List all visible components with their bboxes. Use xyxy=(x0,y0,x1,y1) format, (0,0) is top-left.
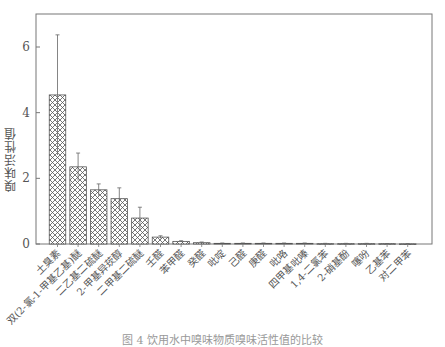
y-tick-label: 2 xyxy=(22,171,30,185)
y-axis-label: 嗅味活性值 xyxy=(2,110,22,210)
x-tick-label: 癸醛 xyxy=(184,247,207,270)
x-tick-label: 己醛 xyxy=(226,247,249,270)
y-tick-label: 0 xyxy=(22,237,30,251)
figure-caption: 图 4 饮用水中嗅味物质嗅味活性值的比较 xyxy=(0,331,445,347)
x-tick-label: 庚醛 xyxy=(246,247,269,270)
y-tick-label: 4 xyxy=(22,106,30,120)
x-tick-labels: 土臭素双(2-氯-1-甲基乙基)醚二乙基二硫醚2-甲基异莰醇二甲基二硫醚壬醛苯甲… xyxy=(4,247,413,327)
bar xyxy=(90,190,107,244)
x-tick-label: 吡啶 xyxy=(205,247,228,270)
bar-series xyxy=(49,35,416,247)
y-tick-label: 6 xyxy=(22,40,30,54)
